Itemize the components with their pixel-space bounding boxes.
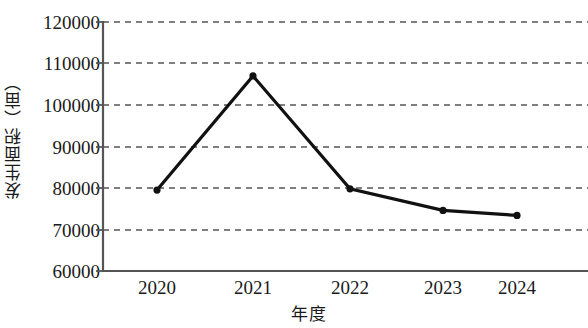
x-axis-title-label: 年度	[291, 300, 327, 325]
data-point-2021	[249, 72, 256, 79]
data-point-2020	[153, 186, 160, 193]
x-tick-label-2023: 2023	[403, 278, 483, 297]
data-line-series-1	[157, 76, 517, 215]
x-axis-title: 年度	[0, 300, 588, 325]
data-point-2022	[346, 185, 353, 192]
x-tick-label-2022: 2022	[310, 278, 390, 297]
line-chart: 发生面积（亩） 120000 110000 100000 90000 80000…	[0, 0, 588, 328]
x-tick-label-2020: 2020	[117, 278, 197, 297]
data-point-2023	[439, 207, 446, 214]
data-point-2024	[513, 212, 520, 219]
data-markers	[153, 72, 520, 219]
x-tick-label-2021: 2021	[213, 278, 293, 297]
x-tick-label-2024: 2024	[477, 278, 557, 297]
gridlines	[103, 22, 588, 230]
